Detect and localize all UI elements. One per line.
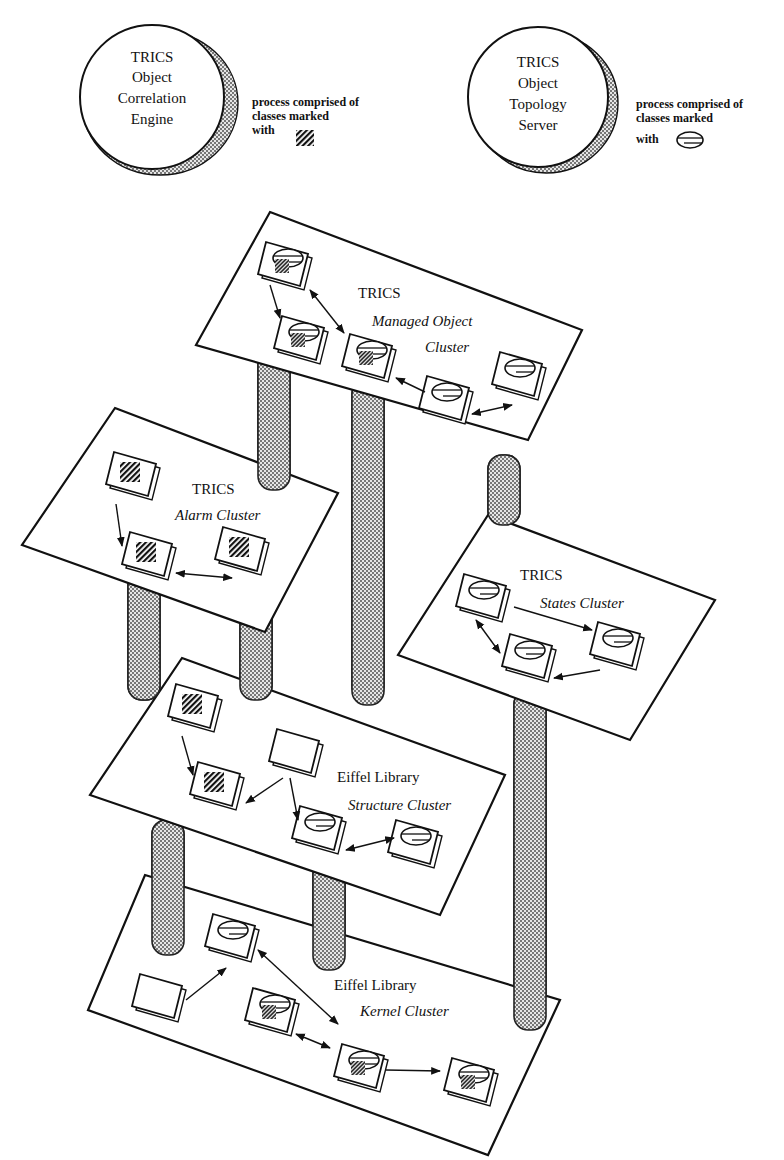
- arrow-kernel-4-5: [386, 1070, 440, 1071]
- cluster-managed-subtitle-1: Managed Object: [371, 313, 473, 329]
- cluster-managed-title: TRICS: [358, 285, 401, 301]
- process-2-line-2: Object: [518, 75, 559, 91]
- process-1-line-3: Correlation: [118, 90, 187, 106]
- cluster-kernel-subtitle: Kernel Cluster: [359, 1003, 449, 1019]
- legend-2-line-3: with: [636, 132, 659, 146]
- cluster-structure-title: Eiffel Library: [337, 769, 420, 785]
- process-1-line-1: TRICS: [131, 49, 174, 65]
- legend-2-line-1: process comprised of: [636, 97, 744, 111]
- cluster-managed-subtitle-2: Cluster: [425, 339, 469, 355]
- process-2-line-3: Topology: [509, 96, 567, 112]
- legend-2-line-2: classes marked: [636, 111, 713, 125]
- striped-ellipse-legend-icon: [677, 132, 703, 148]
- pillar-top-states: [488, 455, 520, 525]
- pillar-top-kernel-far: [514, 690, 546, 1030]
- legend-1-line-1: process comprised of: [252, 95, 360, 109]
- process-1-line-4: Engine: [131, 111, 174, 127]
- cluster-alarm-subtitle: Alarm Cluster: [174, 507, 261, 523]
- process-2-line-4: Server: [518, 117, 557, 133]
- plane-states-cluster: [398, 515, 715, 740]
- legend-1-line-2: classes marked: [252, 109, 329, 123]
- cluster-states-subtitle: States Cluster: [540, 595, 624, 611]
- pillar-top-kernel-left: [152, 820, 184, 955]
- cluster-structure-subtitle: Structure Cluster: [348, 797, 451, 813]
- hatched-square-legend-icon: [296, 130, 314, 146]
- cluster-alarm-title: TRICS: [192, 481, 235, 497]
- process-1-line-2: Object: [132, 69, 173, 85]
- process-2-line-1: TRICS: [517, 54, 560, 70]
- pillar-top-structure-center: [352, 380, 384, 705]
- legend-1-line-3: with: [252, 123, 275, 137]
- cluster-kernel-title: Eiffel Library: [334, 977, 417, 993]
- cluster-architecture-diagram: TRICS Object Correlation Engine process …: [0, 0, 784, 1160]
- cluster-states-title: TRICS: [520, 567, 563, 583]
